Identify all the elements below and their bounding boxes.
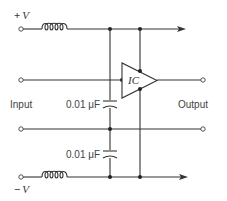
input-label: Input bbox=[10, 99, 32, 110]
input-terminal[interactable] bbox=[19, 78, 23, 82]
positive-supply-label: +V bbox=[14, 9, 30, 21]
input-line bbox=[19, 78, 124, 82]
positive-supply-rail bbox=[19, 23, 186, 32]
ground-line bbox=[19, 127, 205, 131]
positive-supply-terminal[interactable] bbox=[19, 27, 23, 31]
negative-supply-label: −V bbox=[14, 183, 30, 195]
capacitor-lower-label: 0.01 μF bbox=[66, 149, 100, 160]
capacitor-lower: 0.01 μF bbox=[66, 149, 117, 160]
capacitor-upper: 0.01 μF bbox=[66, 99, 117, 110]
capacitor-plate-curved-icon bbox=[103, 156, 117, 158]
output-terminal[interactable] bbox=[201, 78, 205, 82]
negative-supply-terminal[interactable] bbox=[19, 175, 23, 179]
inductor-negative-icon bbox=[42, 171, 67, 178]
capacitor-plate-curved-icon bbox=[103, 106, 117, 108]
negative-supply-rail bbox=[19, 171, 188, 180]
output-label: Output bbox=[178, 99, 208, 110]
circuit-diagram: +V IC Input Output 0.01 μF bbox=[0, 0, 227, 201]
output-line bbox=[157, 78, 205, 82]
ground-input-terminal[interactable] bbox=[19, 127, 23, 131]
ground-output-terminal[interactable] bbox=[201, 127, 205, 131]
ic-label: IC bbox=[127, 74, 140, 86]
inductor-positive-icon bbox=[42, 23, 67, 30]
capacitor-upper-label: 0.01 μF bbox=[66, 99, 100, 110]
